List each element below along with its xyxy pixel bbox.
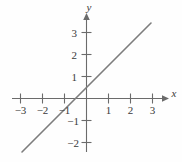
y-tick-label-neg2: −2 [67,137,79,149]
coordinate-plane-svg: −3 −2 −1 1 2 3 3 2 1 −1 −2 x y [0,0,182,162]
y-axis-arrow-icon [83,13,90,20]
y-tick-label-pos3: 3 [72,27,78,39]
x-axis-label: x [171,87,177,99]
x-tick-label-neg3: −3 [15,104,27,116]
y-axis-label: y [86,1,92,13]
graph-figure: −3 −2 −1 1 2 3 3 2 1 −1 −2 x y [0,0,182,162]
y-tick-label-pos1: 1 [72,71,78,83]
y-tick-label-neg1: −1 [67,115,79,127]
x-tick-label-pos3: 3 [150,104,156,116]
y-tick-label-pos2: 2 [72,49,78,61]
x-tick-label-pos2: 2 [128,104,134,116]
x-tick-label-neg2: −2 [37,104,49,116]
x-tick-label-pos1: 1 [106,104,112,116]
x-axis-arrow-icon [162,95,169,102]
